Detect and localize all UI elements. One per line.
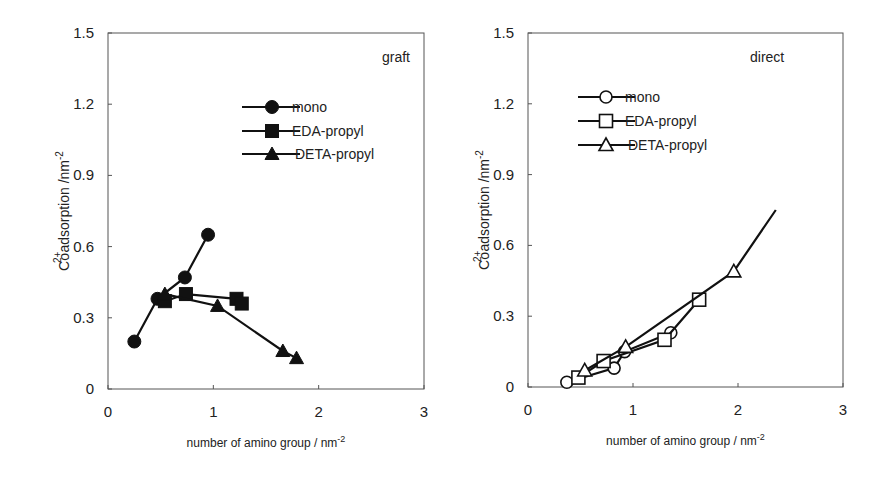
x-tick-label: 2 — [734, 401, 742, 418]
series-deta-propyl — [578, 210, 776, 376]
legend-item-eda-propyl: EDA-propyl — [578, 113, 697, 129]
y-axis-title: Co2+adsorption /nm-2 — [52, 151, 72, 271]
y-tick-label: 0.3 — [73, 309, 94, 326]
y-tick-label: 0.6 — [493, 236, 514, 253]
x-axis-title: number of amino group / nm-2 — [606, 432, 765, 448]
plot-frame — [528, 33, 843, 387]
y-axis-title: Co2+adsorption /nm-2 — [472, 150, 492, 270]
series-mono — [128, 228, 215, 348]
legend-item-deta-propyl: DETA-propyl — [242, 146, 374, 162]
circle-marker — [128, 335, 141, 348]
x-tick-label: 3 — [839, 401, 847, 418]
series-line — [585, 210, 776, 370]
direct-panel: 00.30.60.91.21.50123number of amino grou… — [420, 0, 856, 480]
square-marker — [658, 333, 671, 346]
legend-label: DETA-propyl — [628, 137, 707, 153]
y-tick-label: 0.9 — [73, 166, 94, 183]
legend-circle-icon — [266, 101, 279, 114]
x-axis-title: number of amino group / nm-2 — [187, 434, 346, 450]
legend-label: DETA-propyl — [295, 146, 374, 162]
square-marker — [235, 297, 248, 310]
legend-item-eda-propyl: EDA-propyl — [242, 123, 364, 139]
direct-chart: 00.30.60.91.21.50123number of amino grou… — [420, 0, 872, 480]
y-tick-label: 1.2 — [493, 95, 514, 112]
triangle-marker — [276, 344, 290, 357]
series-line — [134, 235, 208, 342]
x-tick-label: 1 — [629, 401, 637, 418]
graft-panel: 00.30.60.91.21.50123number of amino grou… — [0, 0, 436, 480]
legend-label: EDA-propyl — [292, 123, 364, 139]
panel-tag: graft — [382, 49, 410, 65]
circle-marker — [202, 228, 215, 241]
legend-item-deta-propyl: DETA-propyl — [578, 137, 707, 153]
x-tick-label: 0 — [104, 403, 112, 420]
y-tick-label: 0 — [506, 378, 514, 395]
y-tick-label: 1.5 — [493, 24, 514, 41]
legend-square-icon — [266, 125, 279, 138]
legend-label: mono — [625, 89, 660, 105]
x-tick-label: 2 — [314, 403, 322, 420]
legend-circle-icon — [600, 91, 612, 103]
legend-square-icon — [600, 115, 613, 128]
y-tick-label: 0.3 — [493, 307, 514, 324]
legend-item-mono: mono — [242, 99, 327, 115]
circle-marker — [561, 376, 573, 388]
x-tick-label: 1 — [209, 403, 217, 420]
axis-ticks: 00.30.60.91.21.50123 — [493, 24, 847, 418]
legend-item-mono: mono — [578, 89, 660, 105]
legend-label: EDA-propyl — [625, 113, 697, 129]
triangle-marker — [727, 264, 741, 277]
y-tick-label: 1.5 — [73, 24, 94, 41]
legend-label: mono — [292, 99, 327, 115]
circle-marker — [178, 271, 191, 284]
graft-chart: 00.30.60.91.21.50123number of amino grou… — [0, 0, 436, 480]
y-tick-label: 0 — [86, 380, 94, 397]
axis-ticks: 00.30.60.91.21.50123 — [73, 24, 428, 420]
panel-tag: direct — [750, 49, 784, 65]
triangle-marker — [290, 351, 304, 364]
y-tick-label: 0.6 — [73, 238, 94, 255]
x-tick-label: 0 — [524, 401, 532, 418]
y-tick-label: 1.2 — [73, 95, 94, 112]
plot-frame — [108, 33, 424, 389]
y-tick-label: 0.9 — [493, 166, 514, 183]
